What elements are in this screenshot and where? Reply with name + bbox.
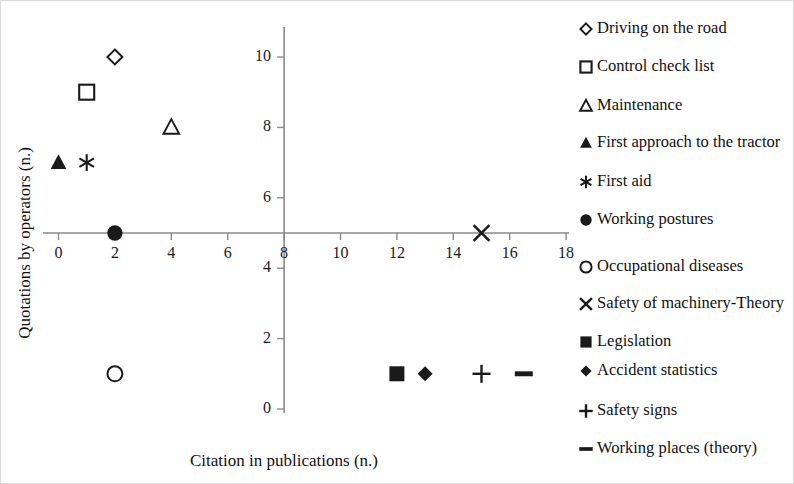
legend-item[interactable]: Accident statistics	[577, 361, 789, 380]
legend-item-label: Working postures	[597, 210, 713, 227]
data-point	[473, 365, 491, 383]
x-tick-label: 6	[213, 244, 243, 262]
data-point	[79, 85, 94, 100]
cross-x-icon	[577, 295, 595, 313]
figure-container: Quotations by operators (n.) Citation in…	[0, 0, 794, 484]
data-point	[51, 154, 67, 169]
x-tick-label: 12	[382, 244, 412, 262]
legend-item-label: Working places (theory)	[597, 439, 757, 456]
x-tick-label: 14	[438, 244, 468, 262]
y-tick-label: 10	[241, 47, 271, 65]
triangle-filled-icon	[577, 134, 595, 152]
x-tick-label: 16	[495, 244, 525, 262]
legend-item[interactable]: First approach to the tractor	[577, 133, 789, 152]
y-tick-label: 2	[241, 329, 271, 347]
diamond-filled-icon	[577, 362, 595, 380]
y-tick-label: 6	[241, 188, 271, 206]
x-tick-label: 10	[326, 244, 356, 262]
legend-item[interactable]: Maintenance	[577, 96, 789, 115]
legend-item-label: Driving on the road	[597, 19, 727, 36]
legend-item[interactable]: Working places (theory)	[577, 439, 789, 458]
legend-item-label: Control check list	[597, 57, 714, 74]
legend-item[interactable]: Working postures	[577, 210, 789, 229]
legend-item-label: Accident statistics	[597, 361, 718, 378]
dash-icon	[577, 440, 595, 458]
legend-item[interactable]: Legislation	[577, 332, 789, 351]
legend-item-label: Safety signs	[597, 401, 677, 418]
chart-legend: Driving on the roadControl check listMai…	[577, 9, 789, 479]
data-point	[107, 50, 122, 65]
square-open-icon	[577, 58, 595, 76]
y-tick-label: 0	[241, 399, 271, 417]
data-point	[79, 154, 94, 171]
data-point	[418, 366, 433, 381]
square-filled-icon	[577, 333, 595, 351]
legend-item-label: Occupational diseases	[597, 257, 743, 274]
y-tick-label: 4	[241, 258, 271, 276]
legend-item[interactable]: Safety of machinery-Theory	[577, 294, 789, 313]
x-tick-label: 8	[269, 244, 299, 262]
x-tick-label: 2	[100, 244, 130, 262]
y-axis-title: Quotations by operators (n.)	[15, 78, 35, 408]
plus-icon	[577, 402, 595, 420]
scatter-plot: Quotations by operators (n.) Citation in…	[1, 1, 569, 484]
data-point	[515, 371, 533, 376]
triangle-open-icon	[577, 97, 595, 115]
legend-item-label: Legislation	[597, 332, 671, 349]
circle-filled-icon	[577, 211, 595, 229]
circle-open-icon	[577, 258, 595, 276]
diamond-open-icon	[577, 20, 595, 38]
asterisk-icon	[577, 173, 595, 191]
x-tick-label: 4	[156, 244, 186, 262]
data-point	[107, 225, 122, 240]
legend-item-label: Safety of machinery-Theory	[597, 294, 784, 311]
legend-item[interactable]: Safety signs	[577, 401, 789, 420]
y-tick-label: 8	[241, 117, 271, 135]
legend-item[interactable]: First aid	[577, 172, 789, 191]
data-point	[389, 366, 404, 381]
plot-canvas	[1, 1, 569, 484]
legend-item-label: First aid	[597, 172, 652, 189]
legend-item[interactable]: Driving on the road	[577, 19, 789, 38]
legend-item[interactable]: Control check list	[577, 57, 789, 76]
x-axis-title: Citation in publications (n.)	[49, 451, 519, 471]
legend-item[interactable]: Occupational diseases	[577, 257, 789, 276]
x-tick-label: 0	[44, 244, 74, 262]
legend-item-label: Maintenance	[597, 96, 682, 113]
legend-item-label: First approach to the tractor	[597, 133, 780, 150]
data-point	[107, 366, 122, 381]
data-point	[163, 119, 179, 134]
